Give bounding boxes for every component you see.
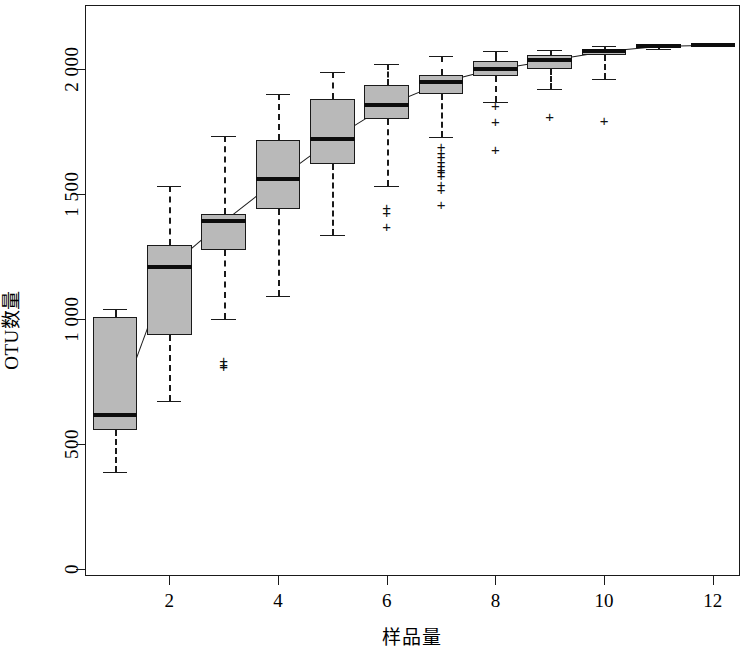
x-axis-tick-label: 8 bbox=[491, 590, 501, 612]
whisker-cap-lower bbox=[592, 79, 617, 80]
whisker-cap-upper bbox=[429, 56, 454, 57]
y-axis-tick-label: 1 000 bbox=[61, 319, 83, 364]
median-line bbox=[256, 177, 301, 181]
y-axis-tick-label-text: 1 500 bbox=[61, 171, 83, 216]
whisker-cap-upper bbox=[103, 309, 128, 310]
whisker-upper bbox=[115, 309, 117, 318]
median-line bbox=[636, 44, 681, 48]
whisker-cap-lower bbox=[320, 235, 345, 236]
whisker-lower bbox=[441, 94, 443, 138]
median-line bbox=[147, 265, 192, 269]
whisker-cap-upper bbox=[537, 50, 562, 51]
y-axis-tick-label-text: 2 000 bbox=[61, 46, 83, 91]
x-axis-tick-label: 10 bbox=[595, 590, 614, 612]
whisker-cap-upper bbox=[266, 94, 291, 95]
boxplot-box[interactable] bbox=[256, 140, 301, 209]
median-line bbox=[419, 80, 464, 84]
y-axis-title: OTU数量 bbox=[0, 290, 23, 370]
x-axis-tick-label: 12 bbox=[703, 590, 722, 612]
outlier-marker: + bbox=[437, 181, 446, 196]
whisker-cap-upper bbox=[320, 72, 345, 73]
whisker-cap-lower bbox=[537, 89, 562, 90]
outlier-marker: + bbox=[382, 219, 391, 234]
outlier-marker: + bbox=[600, 112, 609, 127]
median-line bbox=[582, 49, 627, 53]
whisker-upper bbox=[441, 56, 443, 75]
x-axis-tick bbox=[278, 576, 279, 585]
boxplot-box[interactable] bbox=[310, 99, 355, 164]
whisker-cap-lower bbox=[157, 401, 182, 402]
x-axis-tick bbox=[169, 576, 170, 585]
whisker-cap-upper bbox=[211, 136, 236, 137]
y-axis-tick-label-text: 1 000 bbox=[61, 296, 83, 341]
x-axis-tick-label: 6 bbox=[382, 590, 392, 612]
x-axis-title: 样品量 bbox=[382, 622, 442, 649]
whisker-cap-upper bbox=[157, 186, 182, 187]
x-axis-tick bbox=[713, 576, 714, 585]
outlier-marker: + bbox=[491, 97, 500, 112]
whisker-upper bbox=[332, 72, 334, 98]
median-line bbox=[93, 413, 138, 417]
whisker-cap-lower bbox=[103, 472, 128, 473]
median-line bbox=[527, 58, 572, 62]
median-line bbox=[364, 103, 409, 107]
boxplot-box[interactable] bbox=[147, 245, 192, 335]
boxplot-box[interactable] bbox=[364, 85, 409, 119]
median-line bbox=[310, 137, 355, 141]
whisker-upper bbox=[387, 64, 389, 85]
whisker-lower bbox=[278, 209, 280, 296]
y-axis-tick-label-text: 500 bbox=[61, 429, 83, 459]
median-line bbox=[201, 219, 246, 223]
median-line bbox=[691, 43, 736, 47]
whisker-upper bbox=[224, 136, 226, 213]
y-axis-tick-label-text: 0 bbox=[61, 564, 83, 574]
x-axis-tick bbox=[604, 576, 605, 585]
outlier-marker: + bbox=[437, 196, 446, 211]
whisker-lower bbox=[550, 69, 552, 89]
median-line bbox=[473, 67, 518, 71]
whisker-cap-lower bbox=[266, 296, 291, 297]
whisker-upper bbox=[278, 94, 280, 140]
whisker-cap-upper bbox=[374, 64, 399, 65]
whisker-lower bbox=[224, 250, 226, 319]
whisker-lower bbox=[115, 430, 117, 472]
whisker-cap-lower bbox=[374, 186, 399, 187]
whisker-cap-lower bbox=[211, 319, 236, 320]
outlier-marker: + bbox=[219, 359, 228, 374]
whisker-upper bbox=[495, 51, 497, 61]
whisker-lower bbox=[169, 335, 171, 401]
x-axis-tick-label: 2 bbox=[165, 590, 175, 612]
x-axis-tick bbox=[387, 576, 388, 585]
y-axis-tick-label: 500 bbox=[61, 444, 83, 474]
whisker-cap-lower bbox=[646, 49, 671, 50]
whisker-lower bbox=[387, 119, 389, 186]
y-axis-tick-label: 2 000 bbox=[61, 69, 83, 114]
outlier-marker: + bbox=[545, 109, 554, 124]
whisker-lower bbox=[604, 55, 606, 79]
plot-area: 05001 0001 5002 00024681012+++++++++++++… bbox=[85, 5, 740, 576]
whisker-lower bbox=[332, 164, 334, 235]
outlier-marker: + bbox=[491, 114, 500, 129]
boxplot-figure: OTU数量 样品量 05001 0001 5002 00024681012+++… bbox=[0, 0, 750, 660]
whisker-upper bbox=[169, 186, 171, 245]
whisker-cap-upper bbox=[592, 46, 617, 47]
y-axis-tick-label: 1 500 bbox=[61, 194, 83, 239]
whisker-cap-upper bbox=[483, 51, 508, 52]
x-axis-tick-label: 4 bbox=[273, 590, 283, 612]
y-axis-tick-label: 0 bbox=[61, 569, 83, 579]
x-axis-tick bbox=[495, 576, 496, 585]
outlier-marker: + bbox=[491, 141, 500, 156]
